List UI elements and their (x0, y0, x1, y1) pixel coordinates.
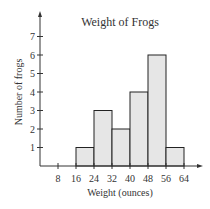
y-tick-label: 1 (30, 142, 35, 153)
x-tick-label: 8 (56, 173, 61, 184)
histogram-chart: Weight of Frogs 1234567 816243240485664 … (0, 0, 210, 209)
histogram-bar (112, 129, 130, 166)
y-tick-label: 2 (30, 124, 35, 135)
x-tick-label: 40 (125, 173, 135, 184)
chart-title: Weight of Frogs (81, 15, 159, 29)
x-axis-arrow-icon (197, 164, 203, 168)
histogram-bar (166, 148, 184, 167)
x-tick-label: 48 (143, 173, 153, 184)
y-tick-label: 7 (30, 31, 35, 42)
x-tick-label: 24 (89, 173, 99, 184)
y-tick-label: 5 (30, 68, 35, 79)
x-tick-label: 64 (179, 173, 189, 184)
histogram-bar (94, 111, 112, 167)
y-tick-label: 3 (30, 105, 35, 116)
y-axis-label: Number of frogs (13, 59, 24, 126)
x-tick-label: 16 (71, 173, 81, 184)
x-tick-label: 32 (107, 173, 117, 184)
x-tick-label: 56 (161, 173, 171, 184)
histogram-bar (148, 55, 166, 166)
y-axis-arrow-icon (38, 11, 42, 17)
bars (76, 55, 184, 166)
y-axis-ticks: 1234567 (30, 31, 43, 153)
y-tick-label: 6 (30, 50, 35, 61)
x-axis-label: Weight (ounces) (87, 187, 153, 199)
histogram-bar (130, 92, 148, 166)
histogram-bar (76, 148, 94, 167)
y-tick-label: 4 (30, 87, 35, 98)
